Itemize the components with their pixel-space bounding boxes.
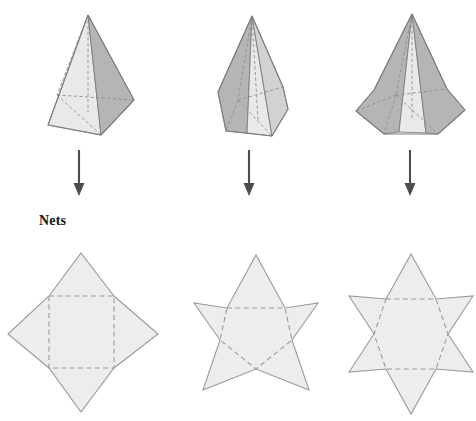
square-pyramid-net [8,253,158,412]
pentagonal-pyramid-net [194,255,318,390]
nets-row [0,0,476,421]
figure-canvas: Nets [0,0,476,421]
square-pyramid-net-star [8,253,158,412]
hexagonal-pyramid-net [349,254,473,414]
pentagonal-pyramid-net-star [194,255,318,390]
nets-svg [0,0,476,421]
hexagonal-pyramid-net-star [349,254,473,414]
